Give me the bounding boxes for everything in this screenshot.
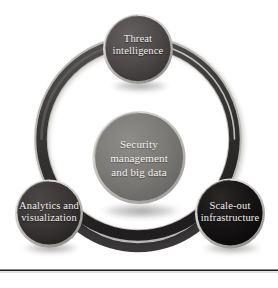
diagram-figure: Threat intelligence Analytics and visual… [0,0,278,288]
node-scale-out-infrastructure[interactable] [195,179,265,256]
diagram-canvas [0,0,278,288]
node-analytics-and-visualization[interactable] [15,180,83,256]
horizontal-rule [0,270,278,273]
center-node[interactable] [93,111,187,220]
center-node-shadow [96,202,186,220]
node-threat-intelligence[interactable] [103,14,173,93]
